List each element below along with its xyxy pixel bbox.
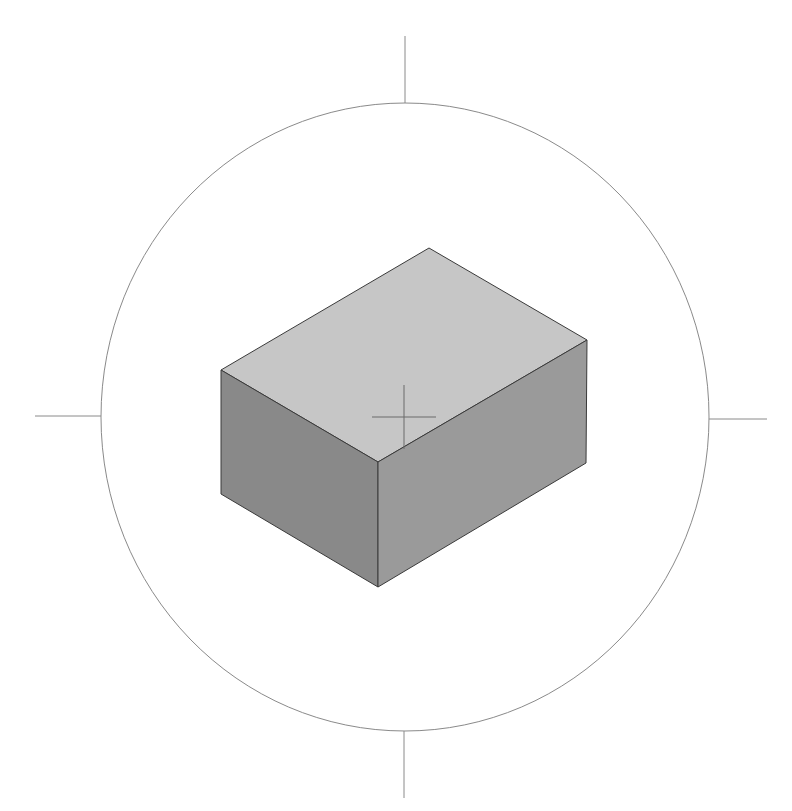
model-viewport[interactable] — [0, 0, 792, 811]
